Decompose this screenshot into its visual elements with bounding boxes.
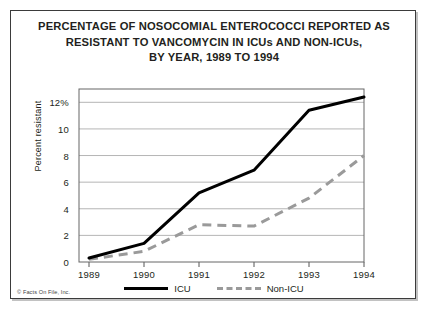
plot-border	[79, 89, 364, 262]
legend-swatch-icu-icon	[124, 287, 168, 290]
chart-canvas	[11, 11, 417, 300]
x-axis-tick-label: 1991	[174, 269, 224, 280]
chart-legend: ICU Non-ICU	[11, 283, 417, 294]
x-axis-tick-label: 1993	[284, 269, 334, 280]
copyright-credit: © Facts On File, Inc.	[17, 289, 70, 295]
legend-item-icu: ICU	[124, 283, 190, 294]
x-axis-tick-label: 1989	[64, 269, 114, 280]
legend-swatch-non-icu-icon	[217, 287, 261, 290]
series-line-non-icu	[89, 156, 364, 260]
x-axis-tick-label: 1990	[119, 269, 169, 280]
legend-label-icu: ICU	[174, 283, 190, 294]
x-axis-tick-label: 1992	[229, 269, 279, 280]
x-axis-tick-label: 1994	[339, 269, 389, 280]
legend-label-non-icu: Non-ICU	[267, 283, 304, 294]
chart-figure-frame: PERCENTAGE OF NOSOCOMIAL ENTEROCOCCI REP…	[10, 10, 416, 299]
plot-area: Percent resistant 024681012% 19891990199…	[11, 11, 417, 300]
gridlines	[79, 102, 364, 235]
x-axis-tick-labels: 198919901991199219931994	[11, 261, 417, 281]
legend-item-non-icu: Non-ICU	[217, 283, 304, 294]
series-line-icu	[89, 97, 364, 258]
